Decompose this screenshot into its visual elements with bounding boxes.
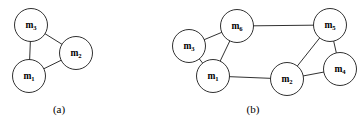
captions-layer: (a)(b) bbox=[53, 103, 260, 116]
node-label-base: m bbox=[23, 71, 31, 81]
graph-node-m3-panel-b[interactable]: m3 bbox=[173, 30, 206, 63]
node-label-base: m bbox=[25, 20, 33, 30]
node-label-base: m bbox=[231, 21, 239, 31]
graph-edge-b-m2-b-m4 bbox=[303, 72, 324, 76]
graph-edge-b-m3-b-m1 bbox=[199, 59, 202, 63]
graph-edge-b-m6-b-m5 bbox=[254, 25, 314, 26]
node-label-base: m bbox=[183, 41, 191, 51]
graph-node-m2-panel-a[interactable]: m2 bbox=[60, 37, 93, 70]
graph-edge-b-m3-b-m6 bbox=[204, 32, 222, 39]
graph-node-m6-panel-b[interactable]: m6 bbox=[221, 10, 254, 43]
graph-edge-a-m1-a-m2 bbox=[44, 60, 61, 69]
graph-edge-b-m1-b-m2 bbox=[229, 77, 270, 79]
figure-container: m3m2m1m6m5m3m4m1m2 (a)(b) bbox=[0, 0, 361, 128]
node-label-base: m bbox=[324, 20, 332, 30]
graph-figure-svg: m3m2m1m6m5m3m4m1m2 (a)(b) bbox=[0, 0, 361, 128]
node-label-base: m bbox=[281, 74, 289, 84]
nodes-layer: m3m2m1m6m5m3m4m1m2 bbox=[13, 9, 357, 96]
graph-edge-b-m5-b-m4 bbox=[334, 41, 337, 53]
graph-edge-b-m2-b-m5 bbox=[297, 38, 319, 66]
graph-node-m1-panel-b[interactable]: m1 bbox=[197, 60, 230, 93]
graph-edge-a-m3-a-m1 bbox=[30, 41, 31, 59]
graph-node-m3-panel-a[interactable]: m3 bbox=[15, 9, 48, 42]
node-label-base: m bbox=[207, 71, 215, 81]
graph-node-m2-panel-b[interactable]: m2 bbox=[271, 63, 304, 96]
graph-node-m1-panel-a[interactable]: m1 bbox=[13, 60, 46, 93]
panel-caption-panel-b: (b) bbox=[247, 103, 260, 116]
graph-node-m4-panel-b[interactable]: m4 bbox=[324, 53, 357, 86]
node-label-subscript: 1 bbox=[31, 74, 34, 81]
node-label-base: m bbox=[70, 48, 78, 58]
node-label-subscript: 1 bbox=[215, 74, 218, 81]
graph-edge-b-m6-b-m1 bbox=[220, 41, 230, 61]
graph-edge-a-m3-a-m2 bbox=[45, 34, 62, 45]
graph-node-m5-panel-b[interactable]: m5 bbox=[314, 9, 347, 42]
node-label-base: m bbox=[334, 64, 342, 74]
panel-caption-panel-a: (a) bbox=[53, 103, 66, 116]
